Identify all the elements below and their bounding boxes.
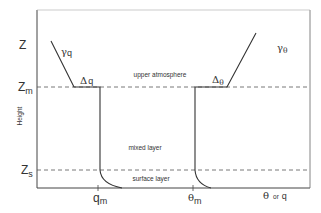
theta-profile-line (195, 33, 256, 188)
x-axis-label: θorq (263, 190, 287, 201)
z-label: Z (19, 38, 26, 52)
gamma-theta-label: γθ (277, 42, 288, 55)
mixed-layer-label: mixed layer (128, 144, 162, 152)
surface-layer-label: surface layer (132, 175, 170, 183)
upper-atmosphere-label: upper atmosphere (134, 71, 187, 79)
delta-q-label: Δq (80, 75, 93, 86)
theta-m-label: θm (188, 192, 202, 206)
boundary-layer-diagram: Height Z Zm Zs qm θm θorq upper atmosphe… (0, 0, 321, 213)
zm-label: Zm (18, 80, 33, 96)
q-profile-line (51, 41, 122, 188)
y-axis-label: Height (16, 106, 24, 125)
gamma-q-label: γq (61, 46, 72, 58)
qm-label: qm (93, 191, 107, 206)
delta-theta-label: Δθ (212, 74, 224, 87)
zs-label: Zs (21, 163, 33, 179)
